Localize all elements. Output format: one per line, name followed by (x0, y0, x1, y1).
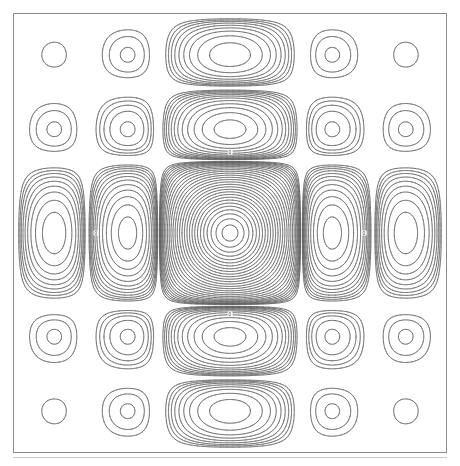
contour-plot-figure: 0000 (0, 0, 460, 466)
baseline-rule (13, 457, 447, 458)
contour-canvas (14, 14, 446, 452)
plot-frame: 0000 (13, 13, 447, 453)
